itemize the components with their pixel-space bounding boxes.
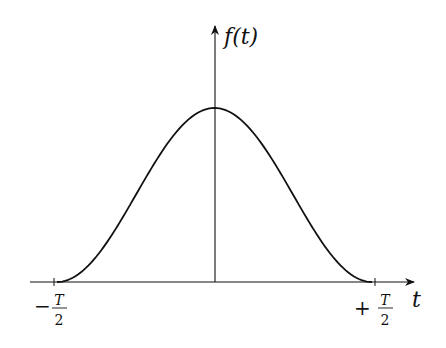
svg-text:+: +: [354, 296, 371, 320]
tick-label-left: − T 2: [34, 292, 67, 328]
diagram-canvas: f(t) t − T 2 + T 2: [0, 0, 446, 348]
svg-text:2: 2: [381, 312, 390, 328]
x-axis-label: t: [412, 287, 421, 312]
tick-label-right: + T 2: [354, 292, 393, 328]
svg-text:2: 2: [55, 312, 64, 328]
svg-text:T: T: [54, 292, 65, 308]
y-axis-label: f(t): [222, 24, 258, 49]
svg-text:−: −: [34, 294, 51, 318]
svg-text:T: T: [380, 292, 391, 308]
